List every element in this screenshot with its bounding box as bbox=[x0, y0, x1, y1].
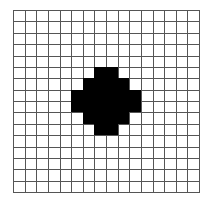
grid-cell bbox=[164, 158, 176, 169]
grid-cell bbox=[118, 169, 130, 180]
grid-cell bbox=[176, 10, 188, 21]
grid-cell bbox=[60, 135, 72, 146]
grid-cell bbox=[106, 21, 118, 32]
grid-cell-filled bbox=[94, 101, 106, 112]
grid-cell bbox=[36, 90, 48, 101]
grid-cell bbox=[129, 21, 141, 32]
grid-cell bbox=[48, 147, 60, 158]
grid-cell bbox=[141, 67, 153, 78]
grid-cell bbox=[60, 44, 72, 55]
grid-cell bbox=[141, 112, 153, 123]
grid-cell bbox=[164, 101, 176, 112]
grid-cell bbox=[71, 158, 83, 169]
grid-cell bbox=[176, 112, 188, 123]
grid-cell bbox=[187, 101, 199, 112]
grid-cell bbox=[36, 124, 48, 135]
grid-cell bbox=[153, 135, 165, 146]
grid-cell bbox=[13, 21, 25, 32]
grid-cell bbox=[141, 101, 153, 112]
grid-cell bbox=[83, 10, 95, 21]
grid-cell bbox=[60, 158, 72, 169]
grid-cell bbox=[48, 181, 60, 192]
grid-cell bbox=[36, 135, 48, 146]
grid-cell bbox=[25, 169, 37, 180]
grid-cell bbox=[25, 90, 37, 101]
grid-cell bbox=[48, 112, 60, 123]
grid-cell bbox=[141, 169, 153, 180]
grid-cell bbox=[118, 21, 130, 32]
grid-cell bbox=[48, 21, 60, 32]
grid-cell bbox=[83, 44, 95, 55]
grid-cell bbox=[106, 147, 118, 158]
grid-cell bbox=[13, 112, 25, 123]
grid-cell-filled bbox=[106, 112, 118, 123]
grid-cell bbox=[36, 44, 48, 55]
grid-cell bbox=[176, 78, 188, 89]
grid-cell bbox=[60, 101, 72, 112]
grid-cell bbox=[141, 21, 153, 32]
grid-cell bbox=[176, 158, 188, 169]
grid-cell-filled bbox=[129, 90, 141, 101]
grid-cell bbox=[94, 56, 106, 67]
grid-cell bbox=[141, 78, 153, 89]
grid-cell bbox=[141, 135, 153, 146]
grid-cell bbox=[106, 181, 118, 192]
grid-cell bbox=[25, 135, 37, 146]
grid-cell bbox=[187, 181, 199, 192]
grid-cell bbox=[129, 181, 141, 192]
grid-cell bbox=[71, 21, 83, 32]
grid-cell bbox=[129, 67, 141, 78]
grid-cell bbox=[141, 33, 153, 44]
grid-cell bbox=[176, 56, 188, 67]
grid-cell bbox=[187, 44, 199, 55]
grid-cell bbox=[94, 33, 106, 44]
grid-cell-filled bbox=[83, 101, 95, 112]
grid-cell bbox=[83, 33, 95, 44]
grid-cell bbox=[141, 147, 153, 158]
grid-cell bbox=[13, 169, 25, 180]
grid-cell bbox=[141, 44, 153, 55]
grid-cell bbox=[141, 124, 153, 135]
grid-cell bbox=[187, 169, 199, 180]
grid-cell bbox=[164, 135, 176, 146]
grid-cell bbox=[60, 181, 72, 192]
grid-cell bbox=[118, 158, 130, 169]
grid-cell bbox=[153, 90, 165, 101]
grid-cell bbox=[153, 33, 165, 44]
grid-cell bbox=[153, 10, 165, 21]
grid-cell bbox=[71, 10, 83, 21]
grid-cell bbox=[94, 21, 106, 32]
grid-cell bbox=[60, 90, 72, 101]
grid-cell bbox=[83, 135, 95, 146]
grid-cell bbox=[176, 135, 188, 146]
grid-cell bbox=[118, 124, 130, 135]
grid-cell-filled bbox=[83, 90, 95, 101]
grid-cell-filled bbox=[118, 78, 130, 89]
grid-cell bbox=[94, 181, 106, 192]
grid-cell bbox=[71, 67, 83, 78]
grid-cell bbox=[25, 44, 37, 55]
grid-cell bbox=[164, 112, 176, 123]
grid-cell bbox=[129, 44, 141, 55]
grid-cell bbox=[118, 10, 130, 21]
grid-cell bbox=[187, 33, 199, 44]
grid-cell bbox=[153, 101, 165, 112]
grid-cell bbox=[129, 169, 141, 180]
grid-cell bbox=[176, 67, 188, 78]
grid-cell bbox=[118, 135, 130, 146]
grid-cell bbox=[129, 56, 141, 67]
grid-cell bbox=[71, 56, 83, 67]
grid-cell-filled bbox=[83, 78, 95, 89]
grid-cell bbox=[153, 169, 165, 180]
grid-cell-filled bbox=[106, 67, 118, 78]
grid-cell bbox=[118, 67, 130, 78]
grid-cell bbox=[83, 181, 95, 192]
grid-cell-filled bbox=[94, 124, 106, 135]
grid-cell bbox=[60, 78, 72, 89]
grid-cell bbox=[36, 112, 48, 123]
grid-cell bbox=[153, 56, 165, 67]
grid-cell bbox=[83, 158, 95, 169]
grid-cell bbox=[106, 44, 118, 55]
grid-cell bbox=[13, 135, 25, 146]
grid-cell bbox=[48, 90, 60, 101]
